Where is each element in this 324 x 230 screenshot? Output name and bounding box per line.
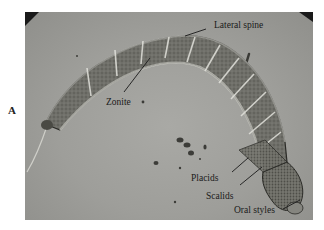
label-zonite: Zonite (106, 98, 131, 108)
posterior-end (41, 120, 53, 130)
specimen-drawing (25, 12, 313, 220)
oral-cone (287, 202, 303, 214)
posterior-spine (27, 126, 47, 172)
figure: A (0, 0, 324, 230)
leader-lateral-spine (185, 29, 206, 36)
label-placids: Placids (191, 174, 218, 184)
label-lateral-spine: Lateral spine (214, 21, 263, 31)
micrograph-photo: Lateral spine Zonite Placids Scalids Ora… (25, 12, 313, 220)
panel-letter: A (8, 104, 16, 116)
leader-placids (232, 158, 248, 172)
corner-shadow-tr (299, 12, 313, 22)
label-scalids: Scalids (206, 192, 233, 202)
corner-shadow-tl (25, 12, 39, 26)
label-oral-styles: Oral styles (234, 206, 275, 216)
leader-scalids (240, 167, 262, 185)
